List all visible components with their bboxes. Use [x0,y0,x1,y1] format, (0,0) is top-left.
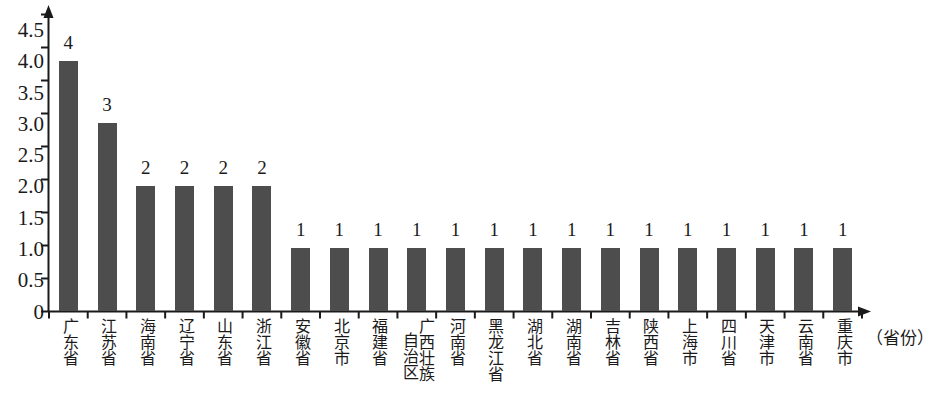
bar-slot: 1 [359,14,398,311]
y-axis-tick-label: 2.5 [4,145,44,166]
bar-value-label: 2 [164,158,204,177]
bar-value-label: 1 [513,220,553,239]
bar-slot: 1 [785,14,824,311]
bar-value-label: 1 [668,220,708,239]
bar-value-label: 4 [48,33,88,52]
bar-slot: 1 [823,14,862,311]
x-axis-category-label-column: 湖北省 [525,318,541,366]
bar-slot: 2 [126,14,165,311]
x-axis-category-label-column: 江苏省 [99,318,115,366]
bar-slot: 1 [707,14,746,311]
x-axis-category-label-column: 自治区 [400,332,416,380]
x-axis-category-label-column: 山东省 [215,318,231,366]
bar-value-label: 2 [126,158,166,177]
bar-slot: 2 [243,14,282,311]
x-axis-category-label-column: 安徽省 [292,318,308,366]
bar [756,248,775,311]
bar [523,248,542,311]
bar-slot: 1 [630,14,669,311]
bar-slot: 1 [746,14,785,311]
bar-value-label: 1 [281,220,321,239]
bar [369,248,388,311]
bar [601,248,620,311]
x-axis-category-label-column: 河南省 [447,318,463,366]
bar [562,248,581,311]
bar-value-label: 1 [784,220,824,239]
x-axis-category-label-column: 浙江省 [254,318,270,366]
bar [59,61,78,311]
x-axis-category-label-column: 海南省 [138,318,154,366]
y-axis-tick-labels: 00.51.01.52.02.53.03.54.04.5 [0,0,44,411]
x-axis-caption: （省份） [866,330,927,347]
bar [252,186,271,311]
x-axis-category-label-column: 天津市 [757,318,773,366]
bar-value-label: 2 [203,158,243,177]
bar [833,248,852,311]
x-axis-category-label-column: 重庆市 [834,318,850,366]
bar [640,248,659,311]
x-axis-category-labels: 广东省江苏省海南省辽宁省山东省浙江省安徽省北京市福建省广西壮族自治区河南省黑龙江… [49,318,862,411]
bar [330,248,349,311]
bar-slot: 1 [668,14,707,311]
x-axis-category-label-column: 辽宁省 [176,318,192,366]
bar [717,248,736,311]
bar [446,248,465,311]
bar [136,186,155,311]
bar-value-label: 1 [474,220,514,239]
bar-slot: 1 [436,14,475,311]
y-axis-tick-label: 2.0 [4,176,44,197]
bar [678,248,697,311]
bar [485,248,504,311]
bar-slot: 2 [165,14,204,311]
bar [407,248,426,311]
x-axis-category-label-column: 陕西省 [641,318,657,366]
y-axis-tick-label: 1.0 [4,238,44,259]
y-axis-tick-label: 4.0 [4,51,44,72]
bar [175,186,194,311]
bar-value-label: 1 [823,220,863,239]
bar-value-label: 1 [706,220,746,239]
bar-value-label: 2 [242,158,282,177]
y-axis-tick-label: 1.5 [4,207,44,228]
bar-slot: 1 [591,14,630,311]
x-axis-category-label-column: 广东省 [60,318,76,366]
x-axis-category-label-column: 云南省 [796,318,812,366]
x-axis-category-label-column: 上海市 [680,318,696,366]
x-axis-category-label-column: 黑龙江省 [486,318,502,382]
bar [214,186,233,311]
bar-value-label: 1 [590,220,630,239]
bar-slot: 1 [552,14,591,311]
bar-slot: 1 [514,14,553,311]
bar-slot: 2 [204,14,243,311]
bar-value-label: 1 [629,220,669,239]
bar-value-label: 1 [552,220,592,239]
bar-slot: 1 [281,14,320,311]
bar [98,123,117,311]
bar-value-label: 1 [397,220,437,239]
bar-value-label: 1 [435,220,475,239]
bar-value-label: 1 [319,220,359,239]
bar-slot: 1 [397,14,436,311]
x-axis-category-label: 重庆市 [813,318,872,411]
x-axis-category-label-column: 吉林省 [602,318,618,366]
y-axis-tick-label: 4.5 [4,20,44,41]
y-axis-tick-label: 3.0 [4,113,44,134]
bar-slot: 1 [475,14,514,311]
x-axis-category-label-column: 北京市 [331,318,347,366]
y-axis-tick-label: 0.5 [4,270,44,291]
y-axis-tick-label: 3.5 [4,82,44,103]
bar [291,248,310,311]
y-axis-tick-label: 0 [4,301,44,322]
bar [794,248,813,311]
x-axis-category-label-column: 福建省 [370,318,386,366]
plot-area: 432222111111111111111 [49,14,862,311]
x-axis-category-label-column: 四川省 [718,318,734,366]
bar-value-label: 1 [745,220,785,239]
bar-value-label: 3 [87,95,127,114]
bar-value-label: 1 [358,220,398,239]
x-axis-category-label-column: 湖南省 [563,318,579,366]
bar-slot: 1 [320,14,359,311]
bar-slot: 4 [49,14,88,311]
bar-slot: 3 [88,14,127,311]
